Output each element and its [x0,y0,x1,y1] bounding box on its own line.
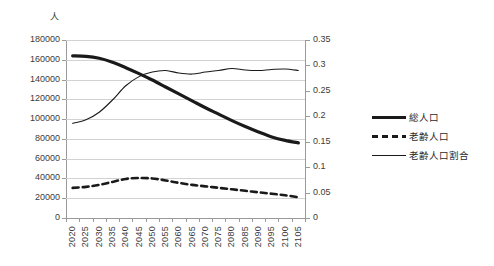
x-axis-tick-mark [119,218,120,222]
left-axis-tick-mark [62,159,66,160]
x-axis-tick-label: 2055 [161,226,170,247]
x-axis-tick-label: 2040 [121,226,130,247]
left-axis-tick-mark [62,80,66,81]
gridline [66,178,305,179]
right-axis-tick-mark [306,193,310,194]
x-axis-tick-mark [186,218,187,222]
gridline [66,99,305,100]
legend-item-label: 老齢人口割合 [409,148,469,162]
x-axis-tick-mark [199,218,200,222]
x-axis-tick-mark [212,218,213,222]
x-axis-tick-mark [93,218,94,222]
gridline [66,139,305,140]
right-axis-tick-label: 0.2 [313,111,359,120]
x-axis-tick-label: 2035 [108,226,117,247]
x-axis-tick-label: 2105 [294,226,303,247]
x-axis-tick-mark [278,218,279,222]
right-axis-tick-label: 0.35 [313,35,359,44]
legend-item[interactable]: 老齢人口割合 [372,145,469,164]
right-axis-tick-label: 0.05 [313,188,359,197]
left-axis-tick-label: 140000 [16,75,60,84]
x-axis-tick-label: 2065 [188,226,197,247]
left-axis-tick-mark [62,99,66,100]
legend-item-label: 総人口 [409,110,439,124]
left-axis-tick-label: 100000 [16,114,60,123]
x-axis-tick-label: 2075 [214,226,223,247]
gridline [66,60,305,61]
right-axis-tick-mark [306,91,310,92]
right-axis-tick-label: 0 [313,213,359,222]
gridline [66,159,305,160]
right-axis-tick-mark [306,65,310,66]
legend-item[interactable]: 老齢人口 [372,126,469,145]
x-axis-tick-mark [305,218,306,222]
x-axis-tick-label: 2085 [241,226,250,247]
x-axis-tick-mark [106,218,107,222]
left-axis-line [66,40,67,219]
x-axis-tick-label: 2090 [254,226,263,247]
x-axis-tick-mark [252,218,253,222]
left-axis-tick-mark [62,60,66,61]
x-axis-tick-label: 2030 [95,226,104,247]
right-axis-tick-label: 0.3 [313,60,359,69]
left-axis-tick-mark [62,198,66,199]
x-axis-tick-label: 2045 [135,226,144,247]
left-axis-tick-label: 180000 [16,35,60,44]
x-axis-tick-mark [146,218,147,222]
gridline [66,198,305,199]
x-axis-tick-mark [66,218,67,222]
x-axis-tick-label: 2020 [68,226,77,247]
gridline [66,80,305,81]
left-axis-unit-label: 人 [50,10,59,23]
right-axis-tick-label: 0.25 [313,86,359,95]
chart-legend: 総人口老齢人口老齢人口割合 [372,107,469,164]
x-axis-tick-label: 2070 [201,226,210,247]
left-axis-tick-label: 20000 [16,193,60,202]
x-axis-tick-label: 2050 [148,226,157,247]
right-axis-tick-label: 0.1 [313,162,359,171]
left-axis-tick-label: 160000 [16,55,60,64]
left-axis-tick-mark [62,139,66,140]
series-line [73,68,299,123]
left-axis-tick-mark [62,119,66,120]
x-axis-tick-mark [172,218,173,222]
right-axis-tick-mark [306,116,310,117]
x-axis-tick-mark [159,218,160,222]
x-axis-tick-mark [239,218,240,222]
right-axis-tick-mark [306,167,310,168]
gridline [66,40,305,41]
x-axis-tick-label: 2025 [81,226,90,247]
x-axis-tick-label: 2095 [267,226,276,247]
left-axis-tick-mark [62,40,66,41]
left-axis-tick-label: 40000 [16,173,60,182]
x-axis-tick-mark [265,218,266,222]
right-axis-tick-mark [306,218,310,219]
left-axis-tick-label: 60000 [16,154,60,163]
x-axis-tick-mark [225,218,226,222]
left-axis-tick-mark [62,178,66,179]
right-axis-tick-label: 0.15 [313,137,359,146]
right-axis-tick-mark [306,40,310,41]
legend-swatch-icon [372,150,406,160]
x-axis-tick-label: 2060 [174,226,183,247]
x-axis-tick-mark [79,218,80,222]
legend-swatch-icon [372,131,406,141]
left-axis-tick-label: 0 [16,213,60,222]
legend-swatch-icon [372,112,406,122]
series-line [73,178,299,197]
gridline [66,119,305,120]
legend-item-label: 老齢人口 [409,129,449,143]
x-axis-tick-mark [292,218,293,222]
x-axis-tick-mark [132,218,133,222]
population-projection-chart: 人 02000040000600008000010000012000014000… [0,0,494,266]
right-axis-tick-mark [306,142,310,143]
legend-item[interactable]: 総人口 [372,107,469,126]
x-axis-tick-label: 2100 [281,226,290,247]
x-axis-tick-label: 2080 [227,226,236,247]
left-axis-tick-label: 80000 [16,134,60,143]
left-axis-tick-label: 120000 [16,94,60,103]
